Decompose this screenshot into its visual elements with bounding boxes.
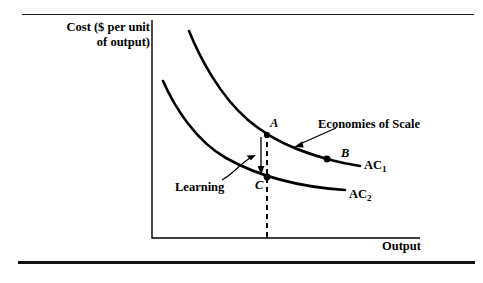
curve-label-ac2: AC2 [349,187,372,202]
point-marker-a [264,132,270,138]
annotation-learning: Learning [175,180,224,195]
figure-container: Cost ($ per unit of output) Output A B C… [0,0,483,283]
curve-label-ac1-base: AC [364,158,382,172]
y-axis-label: Cost ($ per unit of output) [66,20,150,50]
curve-label-ac2-base: AC [349,187,367,201]
annotation-economies-of-scale: Economies of Scale [318,117,420,132]
curve-ac1 [189,31,360,166]
economies-of-scale-leader-head [294,141,304,147]
point-label-c: C [255,178,263,193]
point-marker-c [264,174,271,181]
x-axis-label: Output [382,239,421,254]
economies-of-scale-curved-arrow-shaft [274,139,326,158]
curve-label-ac2-subscript: 2 [367,193,372,203]
point-marker-b [324,156,331,163]
curve-label-ac1-subscript: 1 [382,164,387,174]
curve-label-ac1: AC1 [364,158,387,173]
point-label-b: B [341,146,349,161]
point-label-a: A [270,116,278,131]
